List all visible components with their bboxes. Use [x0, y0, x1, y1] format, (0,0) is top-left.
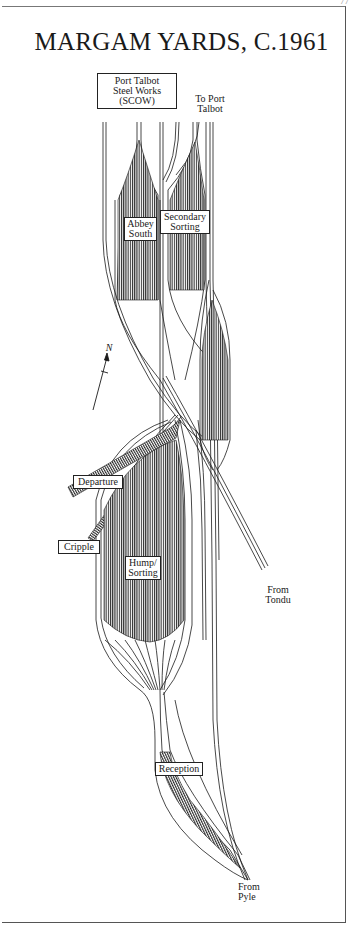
label-departure: Departure: [73, 475, 123, 489]
reception-lines: [155, 700, 250, 880]
label-cripple: Cripple: [58, 540, 100, 554]
label-from-tondu: From Tondu: [263, 585, 293, 605]
label-steelworks: Port Talbot Steel Works (SCOW): [97, 73, 177, 109]
abbey-south-line-2: South: [127, 229, 154, 239]
secondary-sorting-line-2: Sorting: [163, 222, 207, 232]
from-tondu-line-2: Tondu: [263, 595, 293, 605]
steelworks-line-3: (SCOW): [101, 96, 173, 106]
label-north: N: [104, 343, 114, 353]
reception-text: Reception: [159, 763, 200, 774]
label-reception: Reception: [155, 762, 203, 776]
hump-sorting-line-2: Sorting: [128, 568, 158, 578]
cripple-text: Cripple: [64, 541, 94, 552]
north-arrow-icon: [93, 353, 109, 410]
relief-yard-fill: [202, 300, 228, 440]
label-hump-sorting: Hump/ Sorting: [125, 556, 161, 580]
from-pyle-line-2: Pyle: [238, 892, 266, 902]
departure-text: Departure: [78, 476, 118, 487]
label-secondary-sorting: Secondary Sorting: [160, 210, 210, 234]
to-port-talbot-line-2: Talbot: [188, 104, 232, 114]
north-letter: N: [106, 342, 113, 353]
label-to-port-talbot: To Port Talbot: [188, 94, 232, 114]
track-diagram: [0, 0, 363, 941]
label-from-pyle: From Pyle: [238, 882, 266, 902]
main-lines: [206, 122, 248, 880]
label-abbey-south: Abbey South: [124, 217, 157, 241]
